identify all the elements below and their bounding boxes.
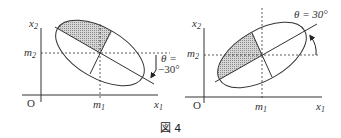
x-axis-label: x1 [315,100,325,114]
mean-y-label: m2 [24,46,36,60]
figure-canvas: x2 m2 O m1 x1 θ = −30° x2 m2 O m1 x1 θ =… [0,0,341,138]
origin-label: O [27,97,35,109]
rotation-arrow-icon [152,55,156,76]
angle-label: θ = 30° [294,8,328,20]
origin-label: O [193,99,201,111]
mean-y-label: m2 [187,47,199,61]
mean-x-label: m1 [255,100,267,114]
y-axis-label: x2 [28,17,38,31]
y-axis-label: x2 [191,17,201,31]
right-panel: x2 m2 O m1 x1 θ = 30° [185,8,328,114]
mean-x-label: m1 [93,98,105,112]
angle-value: −30° [158,63,180,75]
figure-caption: 図 4 [0,119,341,135]
left-panel: x2 m2 O m1 x1 θ = −30° [22,0,180,112]
rotation-arrow-icon [311,37,316,55]
shaded-region [200,20,262,83]
x-axis-label: x1 [153,98,163,112]
shaded-region [40,0,125,53]
